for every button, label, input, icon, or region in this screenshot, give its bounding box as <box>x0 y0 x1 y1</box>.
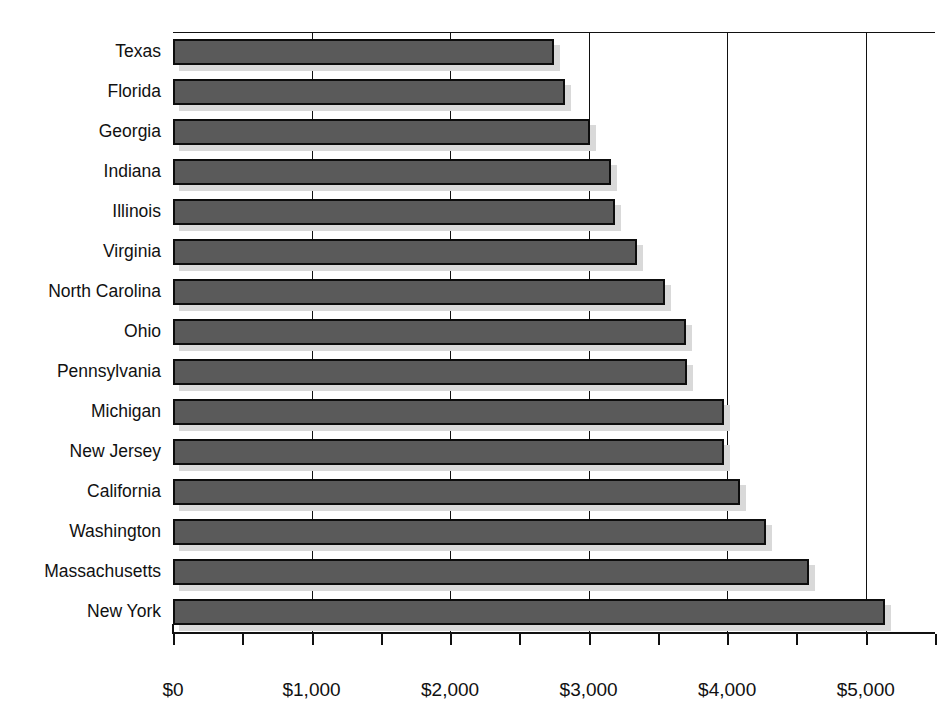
bar <box>173 479 740 505</box>
bar <box>173 519 766 545</box>
bar <box>173 319 686 345</box>
bar <box>173 359 687 385</box>
category-label: Ohio <box>0 323 161 341</box>
bar <box>173 279 665 305</box>
plot-area: $0$1,000$2,000$3,000$4,000$5,000 <box>173 32 935 632</box>
bar <box>173 399 724 425</box>
bar <box>173 199 615 225</box>
tick-label: $4,000 <box>698 680 756 699</box>
category-label: Virginia <box>0 243 161 261</box>
tick-major-0 <box>173 634 175 645</box>
tick-major-3000 <box>589 634 591 645</box>
category-label: Texas <box>0 43 161 61</box>
tick-major-4000 <box>727 634 729 645</box>
category-label: North Carolina <box>0 283 161 301</box>
bar <box>173 599 885 625</box>
bar <box>173 159 611 185</box>
category-label: Michigan <box>0 403 161 421</box>
tick-minor-3500 <box>658 634 660 645</box>
category-label: Illinois <box>0 203 161 221</box>
tick-label: $1,000 <box>282 680 340 699</box>
gridline-5000 <box>866 32 867 632</box>
tick-minor-1500 <box>381 634 383 645</box>
category-label: California <box>0 483 161 501</box>
bar-chart: TexasFloridaGeorgiaIndianaIllinoisVirgin… <box>0 0 949 704</box>
tick-minor-500 <box>242 634 244 645</box>
bar <box>173 239 637 265</box>
tick-label: $3,000 <box>560 680 618 699</box>
category-label: Florida <box>0 83 161 101</box>
tick-label: $0 <box>162 680 183 699</box>
tick-minor-2500 <box>519 634 521 645</box>
tick-major-1000 <box>312 634 314 645</box>
category-label: Georgia <box>0 123 161 141</box>
tick-major-2000 <box>450 634 452 645</box>
category-label: Pennsylvania <box>0 363 161 381</box>
bar <box>173 559 809 585</box>
category-label: Washington <box>0 523 161 541</box>
bar <box>173 119 590 145</box>
bar <box>173 79 565 105</box>
chart-title <box>0 0 949 7</box>
category-label: Indiana <box>0 163 161 181</box>
tick-minor-5500 <box>935 634 937 645</box>
x-axis-line <box>173 632 935 634</box>
tick-label: $5,000 <box>837 680 895 699</box>
tick-major-5000 <box>866 634 868 645</box>
bar <box>173 39 554 65</box>
tick-minor-4500 <box>796 634 798 645</box>
plot-top-border <box>173 32 935 33</box>
tick-label: $2,000 <box>421 680 479 699</box>
category-label: New Jersey <box>0 443 161 461</box>
category-label: Massachusetts <box>0 563 161 581</box>
x-axis-origin-cap <box>172 624 174 634</box>
category-axis-labels: TexasFloridaGeorgiaIndianaIllinoisVirgin… <box>0 32 161 632</box>
category-label: New York <box>0 603 161 621</box>
bar <box>173 439 724 465</box>
